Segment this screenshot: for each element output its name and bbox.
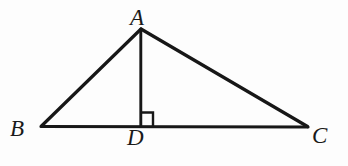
geometry-figure: A B C D (0, 0, 348, 166)
vertex-label-b: B (10, 117, 24, 140)
vertex-label-a: A (130, 6, 144, 29)
segment-ac (141, 29, 308, 127)
segment-bc (41, 127, 308, 128)
triangle-diagram-canvas (0, 0, 348, 166)
right-angle-marker-icon (141, 113, 153, 127)
segment-ab (42, 29, 142, 126)
vertex-label-c: C (312, 124, 327, 147)
vertex-label-d: D (127, 126, 144, 149)
